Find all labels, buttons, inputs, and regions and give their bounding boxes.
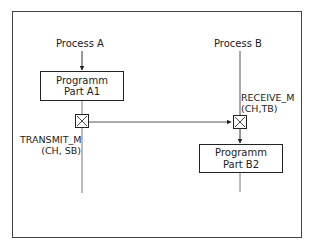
receive-switch-icon bbox=[233, 115, 247, 129]
receive-label-line2: (CH,TB) bbox=[241, 103, 295, 114]
transmit-switch-icon bbox=[75, 114, 89, 128]
box-a1-line2: Part A1 bbox=[64, 86, 100, 98]
transmit-label-line2: (CH, SB) bbox=[20, 145, 81, 156]
transmit-label-line1: TRANSMIT_M bbox=[20, 134, 81, 145]
process-a-label: Process A bbox=[56, 38, 104, 49]
process-b-label: Process B bbox=[214, 38, 262, 49]
box-a1-line1: Programm bbox=[56, 75, 108, 87]
box-b2-line2: Part B2 bbox=[223, 159, 259, 171]
transmit-label: TRANSMIT_M (CH, SB) bbox=[20, 134, 81, 156]
receive-label: RECEIVE_M (CH,TB) bbox=[241, 92, 295, 114]
connector-lines bbox=[0, 0, 315, 251]
program-part-a1-box: Programm Part A1 bbox=[40, 71, 124, 101]
program-part-b2-box: Programm Part B2 bbox=[199, 144, 283, 173]
receive-label-line1: RECEIVE_M bbox=[241, 92, 295, 103]
box-b2-line1: Programm bbox=[215, 147, 267, 159]
